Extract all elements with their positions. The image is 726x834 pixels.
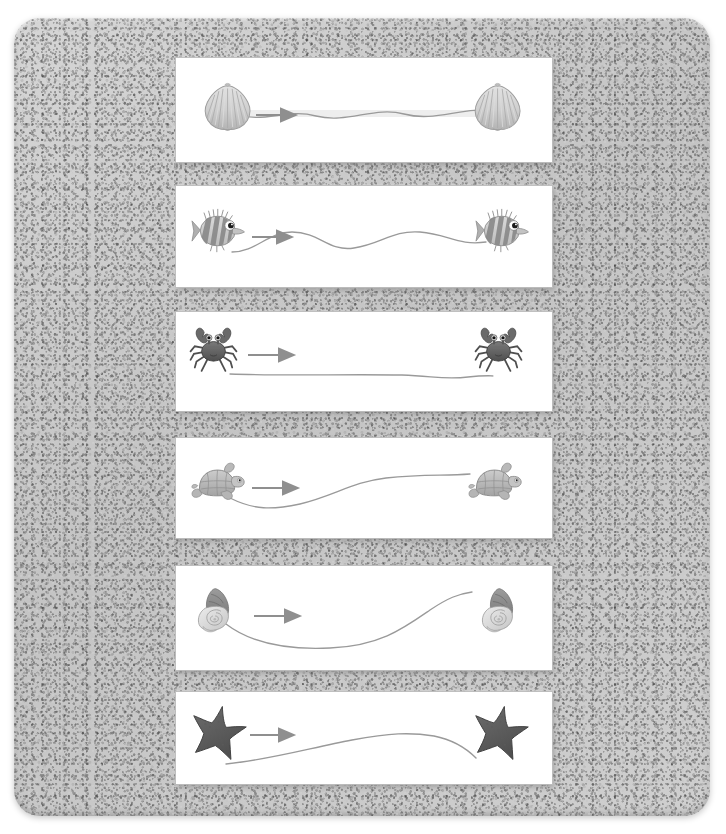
creature-end-spiral-sea-snail[interactable] bbox=[482, 589, 512, 632]
panel-sea-turtle[interactable]: Sea turtle bbox=[176, 438, 552, 538]
panel-crab[interactable]: Crab bbox=[176, 312, 552, 411]
creature-end-striped-butterflyfish[interactable] bbox=[476, 209, 528, 252]
scene-scallop-shell bbox=[176, 58, 552, 162]
creature-start-starfish[interactable] bbox=[185, 700, 249, 763]
creature-end-scallop-shell[interactable] bbox=[475, 83, 520, 130]
panel-scallop-shell[interactable]: Scallop shell bbox=[176, 58, 552, 162]
creature-start-spiral-sea-snail[interactable] bbox=[198, 589, 228, 632]
creature-end-crab[interactable] bbox=[476, 328, 522, 371]
scene-starfish bbox=[176, 692, 552, 784]
trail-path bbox=[226, 734, 476, 764]
creature-end-starfish[interactable] bbox=[467, 700, 531, 763]
trail-path bbox=[232, 232, 486, 252]
scene-spiral-sea-snail bbox=[176, 566, 552, 670]
panel-starfish[interactable]: Starfish bbox=[176, 692, 552, 784]
panel-spiral-sea-snail[interactable]: Spiral sea snail shell bbox=[176, 566, 552, 670]
creature-start-scallop-shell[interactable] bbox=[205, 83, 250, 130]
scene-sea-turtle bbox=[176, 438, 552, 538]
trail-path bbox=[230, 474, 470, 508]
creature-end-sea-turtle[interactable] bbox=[469, 463, 521, 499]
screenshot-canvas: Scallop shell Striped butterflyfish bbox=[0, 0, 726, 834]
panel-striped-butterflyfish[interactable]: Striped butterflyfish bbox=[176, 186, 552, 287]
trail-path bbox=[226, 592, 472, 648]
trail-path bbox=[230, 374, 493, 378]
scene-crab bbox=[176, 312, 552, 411]
creature-start-sea-turtle[interactable] bbox=[192, 463, 244, 499]
scene-striped-butterflyfish bbox=[176, 186, 552, 287]
creature-start-crab[interactable] bbox=[191, 328, 237, 371]
creature-start-striped-butterflyfish[interactable] bbox=[192, 209, 244, 252]
